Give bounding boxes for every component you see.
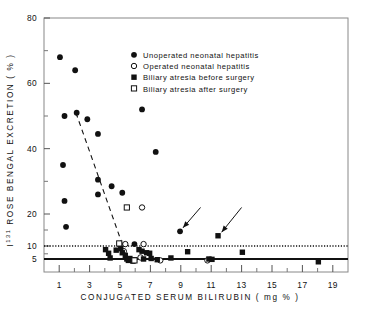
data-point (185, 249, 190, 254)
x-tick-label: 7 (148, 280, 153, 290)
legend-label-3: Biliary atresia after surgery (143, 85, 248, 94)
legend-marker-filled-square (131, 75, 136, 80)
x-tick-label: 9 (178, 280, 183, 290)
legend-label-0: Unoperated neonatal hepatitis (143, 51, 259, 60)
x-tick-label: 3 (87, 280, 92, 290)
data-point (60, 162, 66, 168)
data-point (139, 107, 145, 113)
legend-marker-open-square (131, 86, 136, 91)
y-tick-label: 20 (27, 209, 37, 219)
data-point (141, 256, 146, 261)
data-point (63, 224, 69, 230)
y-tick-label: 60 (27, 78, 37, 88)
data-point (132, 258, 137, 263)
y-axis-title: I131 ROSE BENGAL EXCRETION ( % ) (5, 53, 15, 246)
data-point (95, 192, 101, 198)
data-point (107, 255, 112, 260)
y-tick-label: 5 (32, 254, 37, 264)
series-filled-circle (57, 54, 183, 247)
reference-lines-layer (44, 246, 348, 259)
x-tick-label: 5 (117, 280, 122, 290)
data-point (209, 257, 214, 262)
data-point (148, 256, 153, 261)
legend: Unoperated neonatal hepatitisOperated ne… (131, 51, 259, 94)
y-tick-label: 80 (27, 13, 37, 23)
data-point (124, 205, 129, 210)
data-point (316, 259, 321, 264)
legend-marker-filled-circle (131, 52, 137, 58)
x-tick-label: 17 (297, 280, 307, 290)
data-point (132, 241, 138, 247)
y-tick-label: 40 (27, 144, 37, 154)
data-point (215, 233, 220, 238)
data-point (240, 250, 245, 255)
annotations-layer (183, 207, 242, 232)
data-point (74, 110, 80, 116)
data-point (168, 255, 173, 260)
y-axis-title-text: I131 ROSE BENGAL EXCRETION ( % ) (5, 53, 15, 246)
data-point (119, 190, 125, 196)
scatter-plot: 80604020105135791113151719 Unoperated ne… (0, 0, 368, 311)
data-point (141, 241, 146, 246)
x-tick-label: 15 (267, 280, 277, 290)
x-axis-title: CONJUGATED SERUM BILIRUBIN ( mg % ) (80, 293, 299, 302)
x-tick-label: 13 (237, 280, 247, 290)
x-tick-label: 11 (206, 280, 216, 290)
y-axis-title-superscript: 131 (5, 229, 11, 243)
data-point (57, 54, 63, 60)
data-point (106, 251, 111, 256)
legend-label-1: Operated neonatal hepatitis (143, 62, 250, 71)
y-tick-label: 10 (27, 241, 37, 251)
figure-container: 80604020105135791113151719 Unoperated ne… (0, 0, 368, 311)
data-point (62, 113, 68, 119)
data-point (177, 228, 183, 234)
data-point (72, 67, 78, 73)
legend-label-2: Biliary atresia before surgery (143, 73, 255, 82)
x-tick-label: 19 (328, 280, 338, 290)
data-point (84, 116, 90, 122)
data-point (117, 241, 122, 246)
x-tick-label: 1 (57, 280, 62, 290)
data-point (155, 257, 160, 262)
data-point (95, 131, 101, 137)
data-point (153, 149, 159, 155)
data-point (147, 251, 152, 256)
series-open-circle (121, 205, 210, 263)
legend-marker-open-circle (131, 63, 136, 68)
y-axis-title-rest: ROSE BENGAL EXCRETION ( % ) (6, 53, 15, 228)
data-point (109, 183, 115, 189)
data-point (95, 177, 101, 183)
data-point (139, 205, 144, 210)
data-point (62, 198, 68, 204)
